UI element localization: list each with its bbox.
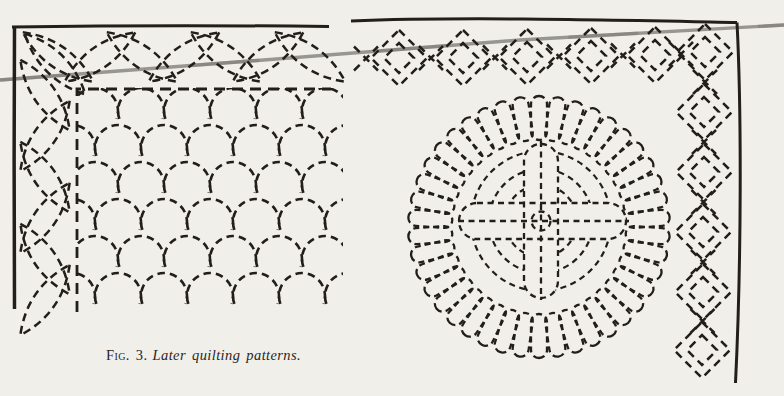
clamshell-arc (164, 88, 210, 119)
diamond-cross-link (692, 130, 716, 154)
diamond-inner (690, 37, 720, 67)
clamshell-arc (302, 162, 348, 193)
clamshell-arc (187, 125, 233, 156)
clamshell-arc (233, 273, 279, 304)
leaf-motif (184, 23, 267, 90)
diamond-cross-link (691, 250, 715, 274)
clamshell-arc (95, 199, 141, 230)
quilting-figure-svg (0, 0, 784, 396)
wreath-cable-lobe (422, 155, 468, 191)
clamshell-arc (95, 273, 141, 304)
clamshell-arc (164, 162, 210, 193)
wreath-cable-lobe (581, 294, 619, 339)
left-panel-top-border (12, 26, 329, 27)
clamshell-arc (256, 88, 302, 119)
clamshell-arc (302, 88, 348, 119)
diamond-outer (676, 144, 732, 200)
diamond-inner (640, 40, 670, 70)
clamshell-arc (141, 273, 187, 304)
wreath-cable-lobe (581, 114, 619, 159)
clamshell-arc (118, 236, 164, 267)
diamond-inner (512, 42, 542, 72)
diamond-inner (688, 277, 718, 307)
clamshell-arc (49, 273, 95, 304)
clamshell-arc (256, 162, 302, 193)
diamond-inner (689, 97, 719, 127)
clamshell-arc (187, 199, 233, 230)
clamshell-arc (118, 88, 164, 119)
diamond-outer (675, 204, 731, 260)
diamond-inner (688, 217, 718, 247)
diamond-inner (448, 43, 478, 73)
wreath-cable-lobe (475, 105, 509, 152)
wreath-cable-lobe (459, 294, 497, 339)
clamshell-arc (141, 125, 187, 156)
leaf-motif (11, 176, 78, 259)
leaf-motif (11, 53, 78, 136)
clamshell-arc (187, 273, 233, 304)
right-panel-top-border (351, 19, 737, 23)
clamshell-arc (279, 199, 325, 230)
wreath-cable-lobe (610, 264, 656, 300)
leaf-motif (58, 23, 141, 90)
wreath-cable-lobe (459, 114, 497, 159)
clamshell-arc (210, 162, 256, 193)
diamond-cross-link (483, 46, 507, 70)
clamshell-fill-pattern (49, 88, 371, 304)
clamshell-arc (233, 125, 279, 156)
clamshell-arc (141, 199, 187, 230)
diamond-outer (371, 30, 427, 86)
diamond-cross-link (547, 45, 571, 69)
diamond-outer (435, 30, 491, 86)
clamshell-arc (233, 199, 279, 230)
diamond-outer (675, 264, 731, 320)
diamond-cross-link (691, 309, 715, 333)
diamond-inner (689, 157, 719, 187)
clamshell-arc (302, 236, 348, 267)
leaf-motif (11, 135, 78, 218)
diamond-inner (576, 41, 606, 71)
diamond-outer (674, 322, 730, 378)
wreath-cable-lobe (410, 239, 456, 264)
center-cross-motif (458, 141, 629, 300)
wreath-cable-lobe (422, 264, 468, 300)
scanned-book-page: Fig. 3.Later quilting patterns. (0, 0, 784, 396)
leaf-motif (142, 23, 225, 90)
diamond-cross-link (692, 190, 716, 214)
diamond-outer (627, 27, 683, 83)
clamshell-arc (325, 125, 371, 156)
clamshell-arc (256, 236, 302, 267)
wreath-cable-lobe (622, 190, 668, 215)
clamshell-arc (279, 125, 325, 156)
diamond-cross-link (669, 42, 693, 66)
clamshell-arc (72, 162, 118, 193)
clamshell-arc (325, 273, 371, 304)
leaf-motif (11, 258, 78, 341)
clamshell-arc (210, 236, 256, 267)
diamond-cross-link (611, 44, 635, 68)
figure-caption: Fig. 3.Later quilting patterns. (106, 347, 301, 364)
diamond-cross-link (354, 47, 378, 71)
wreath-cable-lobe (570, 302, 604, 349)
leaf-border-chain (11, 23, 351, 341)
leaf-motif (11, 94, 78, 177)
leaf-motif (100, 23, 183, 90)
figure-caption-title: Later quilting patterns. (153, 347, 302, 363)
quilting-patterns-drawing (0, 0, 784, 396)
clamshell-arc (210, 88, 256, 119)
diamond-outer (677, 24, 733, 80)
diamond-outer (676, 84, 732, 140)
diamond-cross-link (693, 70, 717, 94)
diamond-cross-link (419, 46, 443, 70)
clamshell-arc (95, 125, 141, 156)
clamshell-arc (164, 236, 210, 267)
diamond-inner (687, 335, 717, 365)
clamshell-arc (72, 236, 118, 267)
right-panel-right-border (736, 23, 741, 384)
clamshell-arc (325, 199, 371, 230)
wreath-cable-lobe (610, 155, 656, 191)
leaf-motif (11, 217, 78, 300)
figure-caption-label: Fig. 3. (106, 347, 148, 363)
clamshell-arc (118, 162, 164, 193)
clamshell-arc (279, 273, 325, 304)
